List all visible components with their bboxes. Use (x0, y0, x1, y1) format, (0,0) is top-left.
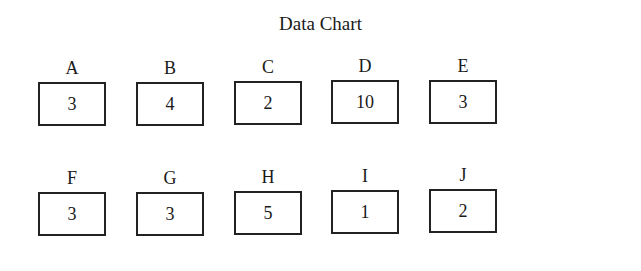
cell-label: B (136, 57, 204, 79)
cell-d: D 10 (331, 55, 399, 124)
value-box: 3 (38, 192, 106, 236)
cell-label: J (429, 164, 497, 186)
cell-label: A (38, 57, 106, 79)
cell-e: E 3 (429, 55, 497, 124)
cell-label: D (331, 55, 399, 77)
cell-label: E (429, 55, 497, 77)
chart-title: Data Chart (0, 13, 641, 35)
cell-h: H 5 (234, 166, 302, 235)
cell-g: G 3 (136, 167, 204, 236)
value-box: 3 (136, 192, 204, 236)
cell-label: C (234, 56, 302, 78)
cell-label: H (234, 166, 302, 188)
value-box: 1 (331, 190, 399, 234)
value-box: 3 (429, 80, 497, 124)
value-box: 10 (331, 80, 399, 124)
cell-a: A 3 (38, 57, 106, 126)
value-box: 5 (234, 191, 302, 235)
value-box: 2 (429, 189, 497, 233)
cell-i: I 1 (331, 165, 399, 234)
cell-label: G (136, 167, 204, 189)
cell-c: C 2 (234, 56, 302, 125)
value-box: 4 (136, 82, 204, 126)
cell-label: I (331, 165, 399, 187)
cell-b: B 4 (136, 57, 204, 126)
cell-f: F 3 (38, 167, 106, 236)
cell-label: F (38, 167, 106, 189)
value-box: 3 (38, 82, 106, 126)
value-box: 2 (234, 81, 302, 125)
cell-j: J 2 (429, 164, 497, 233)
